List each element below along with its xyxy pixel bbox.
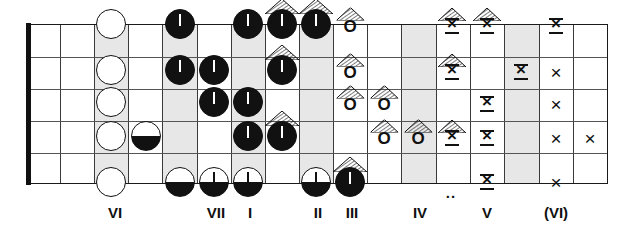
- bowtie-x-icon: ×: [479, 18, 495, 34]
- note-marker-full_circle_stem: [233, 121, 263, 151]
- note-marker-open_circle: [96, 55, 126, 85]
- note-stem-icon: [213, 92, 215, 104]
- bowtie-x-icon: ×: [513, 64, 529, 80]
- note-marker-half_circle_stem: [301, 167, 331, 197]
- note-stem-icon: [247, 92, 249, 104]
- note-marker-half_circle_stem_roof: [267, 9, 297, 39]
- note-marker-bowtie_x: ×: [479, 130, 495, 146]
- letter-o-icon: O: [377, 96, 390, 113]
- note-marker-bowtie_x: ×: [548, 18, 564, 34]
- note-marker-plain_x: ×: [584, 129, 595, 148]
- fret-label-VI: VI: [108, 204, 122, 221]
- note-disc-halffill: [301, 167, 331, 197]
- note-disc-full: [267, 9, 297, 39]
- note-disc-full: [199, 87, 229, 117]
- bowtie-x-icon: ×: [444, 18, 460, 34]
- note-marker-letter_o_roof: O: [343, 18, 356, 35]
- note-marker-half_circle_stem_roof: [301, 9, 331, 39]
- note-marker-half_circle_stem: [233, 167, 263, 197]
- note-stem-icon: [315, 172, 317, 184]
- note-disc-full: [335, 167, 365, 197]
- note-stem-icon: [315, 14, 317, 26]
- bowtie-x-icon: ×: [479, 130, 495, 146]
- bowtie-x-icon: ×: [444, 64, 460, 80]
- fretboard-diagram: OOOOOO×××××××××××××× VIVIIIIIIIIIVV(VI) …: [0, 0, 636, 236]
- hatched-roof-icon: [370, 85, 398, 98]
- hatched-roof-icon: [265, 111, 299, 126]
- note-marker-letter_o_roof: O: [343, 96, 356, 113]
- note-marker-open_circle: [96, 9, 126, 39]
- hatched-roof-icon: [299, 0, 333, 14]
- note-marker-letter_o_roof: O: [377, 130, 390, 147]
- note-marker-letter_o_roof: O: [411, 130, 424, 147]
- note-disc-full: [199, 55, 229, 85]
- note-disc-halffill: [131, 121, 161, 151]
- note-disc-full: [267, 55, 297, 85]
- fret-label-I: I: [248, 204, 252, 221]
- fret-label-VI: (VI): [544, 204, 568, 221]
- note-marker-bowtie_x_roof: ×: [479, 18, 495, 34]
- note-marker-letter_o_roof: O: [377, 96, 390, 113]
- note-marker-plain_x: ×: [550, 63, 561, 82]
- note-marker-full_circle_stem: [199, 55, 229, 85]
- note-disc-open: [96, 9, 126, 39]
- fret-label-IV: IV: [413, 204, 427, 221]
- note-marker-full_circle_stem: [199, 87, 229, 117]
- note-marker-bowtie_x_roof: ×: [444, 64, 460, 80]
- note-disc-halffill: [165, 167, 195, 197]
- note-disc-full: [165, 9, 195, 39]
- note-disc-full: [233, 121, 263, 151]
- note-stem-icon: [247, 126, 249, 138]
- note-stem-icon: [247, 14, 249, 26]
- hatched-roof-icon: [370, 119, 398, 132]
- note-disc-open: [96, 55, 126, 85]
- note-marker-full_circle_stem: [165, 9, 195, 39]
- position-dot-marker: ..: [446, 184, 456, 201]
- note-stem-icon: [213, 172, 215, 184]
- note-marker-bowtie_x: ×: [479, 174, 495, 190]
- note-stem-icon: [349, 172, 351, 184]
- note-marker-letter_o_roof: O: [343, 64, 356, 81]
- fret-label-V: V: [482, 204, 492, 221]
- note-disc-full: [267, 121, 297, 151]
- hatched-roof-icon: [404, 119, 432, 132]
- note-disc-full: [165, 55, 195, 85]
- note-disc-full: [233, 9, 263, 39]
- note-stem-icon: [179, 60, 181, 72]
- letter-o-icon: O: [343, 64, 356, 81]
- note-marker-full_circle_stem: [233, 9, 263, 39]
- note-marker-half_circle: [131, 121, 161, 151]
- plain-x-icon: ×: [550, 129, 561, 148]
- plain-x-icon: ×: [550, 95, 561, 114]
- plain-x-icon: ×: [550, 63, 561, 82]
- hatched-roof-icon: [265, 45, 299, 60]
- note-marker-half_circle_stem_roof: [267, 55, 297, 85]
- note-disc-full: [233, 87, 263, 117]
- note-marker-open_circle: [96, 87, 126, 117]
- note-disc-open: [96, 121, 126, 151]
- note-marker-half_circle_stem_roof: [335, 167, 365, 197]
- letter-o-icon: O: [411, 130, 424, 147]
- hatched-roof-icon: [336, 53, 364, 66]
- note-marker-plain_x: ×: [550, 173, 561, 192]
- note-stem-icon: [281, 60, 283, 72]
- note-disc-full: [301, 9, 331, 39]
- note-disc-open: [96, 167, 126, 197]
- hatched-roof-icon: [336, 85, 364, 98]
- note-marker-half_circle_stem: [199, 167, 229, 197]
- bowtie-x-icon: ×: [479, 96, 495, 112]
- note-marker-plain_x: ×: [550, 129, 561, 148]
- note-stem-icon: [179, 14, 181, 26]
- bowtie-x-icon: ×: [479, 174, 495, 190]
- note-marker-full_circle_stem: [233, 87, 263, 117]
- letter-o-icon: O: [377, 130, 390, 147]
- note-marker-bowtie_x_roof: ×: [444, 130, 460, 146]
- note-disc-halffill: [233, 167, 263, 197]
- bowtie-x-icon: ×: [444, 130, 460, 146]
- note-marker-bowtie_x: ×: [479, 96, 495, 112]
- note-markers-layer: OOOOOO××××××××××××××: [0, 0, 636, 236]
- note-stem-icon: [213, 60, 215, 72]
- letter-o-icon: O: [343, 96, 356, 113]
- note-marker-half_circle_stem_roof: [267, 121, 297, 151]
- plain-x-icon: ×: [584, 129, 595, 148]
